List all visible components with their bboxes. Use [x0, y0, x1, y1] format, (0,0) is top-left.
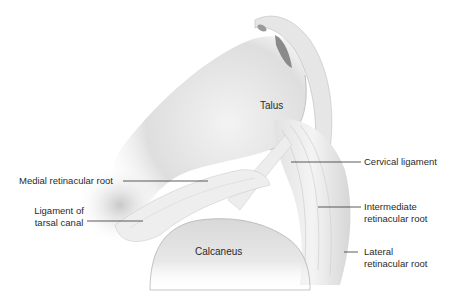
label-line-1: Intermediate — [364, 201, 427, 213]
label-ligament-tarsal-canal: Ligament of tarsal canal — [30, 205, 88, 229]
label-calcaneus: Calcaneus — [195, 246, 242, 257]
label-cervical-ligament: Cervical ligament — [364, 156, 437, 168]
label-line-2: retinacular root — [364, 213, 427, 225]
label-talus: Talus — [260, 100, 283, 111]
label-line-1: Ligament of — [30, 205, 88, 217]
label-medial-retinacular-root: Medial retinacular root — [19, 175, 113, 187]
label-line-2: retinacular root — [364, 258, 427, 270]
label-line-2: tarsal canal — [30, 217, 88, 229]
label-line-1: Lateral — [364, 246, 427, 258]
label-intermediate-retinacular-root: Intermediate retinacular root — [364, 201, 427, 225]
label-lateral-retinacular-root: Lateral retinacular root — [364, 246, 427, 270]
